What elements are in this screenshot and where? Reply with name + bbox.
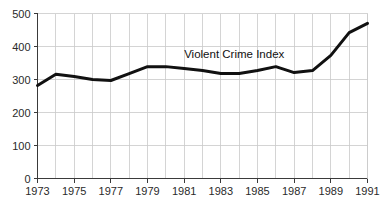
x-axis-tick-labels: 1973197519771979198119831985198719891991	[25, 185, 379, 197]
vertical-gridlines	[56, 14, 368, 179]
chart-canvas: 0100200300400500 19731975197719791981198…	[0, 0, 380, 210]
x-tick-label: 1981	[172, 185, 196, 197]
x-tick-label: 1975	[62, 185, 86, 197]
series-inline-label: Violent Crime Index	[184, 48, 284, 60]
x-tick-label: 1977	[99, 185, 123, 197]
x-tick-label: 1989	[319, 185, 343, 197]
series-annotation-label: Violent Crime Index	[184, 48, 284, 60]
x-tick-label: 1983	[209, 185, 233, 197]
y-tick-label: 100	[12, 140, 30, 152]
x-tick-label: 1985	[245, 185, 269, 197]
violent-crime-index-chart: 0100200300400500 19731975197719791981198…	[0, 0, 380, 210]
y-axis-tick-labels: 0100200300400500	[12, 8, 30, 185]
x-tick-label: 1987	[282, 185, 306, 197]
x-tick-label: 1991	[355, 185, 379, 197]
y-tick-label: 0	[24, 173, 30, 185]
axis-tick-marks	[34, 14, 368, 183]
x-tick-label: 1973	[25, 185, 49, 197]
y-tick-label: 300	[12, 74, 30, 86]
y-tick-label: 500	[12, 8, 30, 20]
x-tick-label: 1979	[135, 185, 159, 197]
y-tick-label: 400	[12, 41, 30, 53]
y-tick-label: 200	[12, 107, 30, 119]
